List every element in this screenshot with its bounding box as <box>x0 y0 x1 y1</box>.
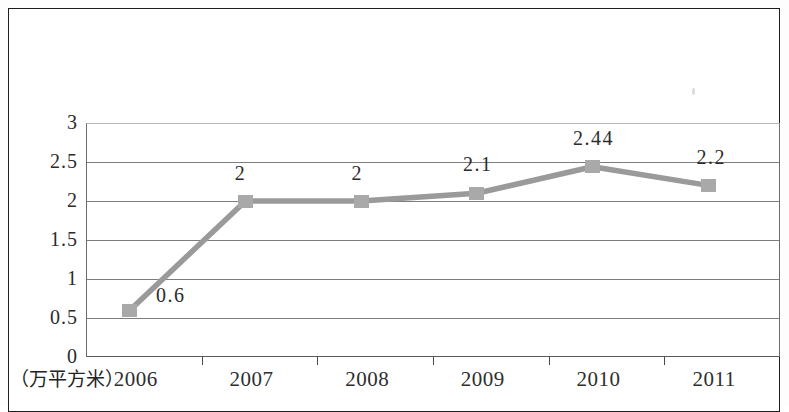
data-point-marker[interactable] <box>585 160 600 173</box>
y-axis-tick-label: 2 <box>14 189 78 212</box>
x-axis-tick-label: 2011 <box>654 367 774 392</box>
data-point-marker[interactable] <box>354 195 369 208</box>
x-axis-tick-label: 2010 <box>539 367 659 392</box>
x-axis-tick <box>317 357 318 365</box>
x-axis-tick <box>202 357 203 365</box>
gridline <box>87 201 779 202</box>
data-point-label: 0.6 <box>121 284 221 307</box>
unit-label: （万平方米） <box>10 364 124 391</box>
gridline <box>87 279 779 280</box>
data-point-label: 2 <box>307 162 407 185</box>
data-point-marker[interactable] <box>469 187 484 200</box>
data-point-marker[interactable] <box>701 179 716 192</box>
y-axis-tick-label: 0.5 <box>14 306 78 329</box>
x-axis-tick-label: 2008 <box>307 367 427 392</box>
data-point-label: 2.1 <box>428 153 528 176</box>
data-point-label: 2.44 <box>544 127 644 150</box>
x-axis-tick <box>549 357 550 365</box>
x-axis-tick <box>433 357 434 365</box>
data-point-label: 2 <box>191 162 291 185</box>
data-point-marker[interactable] <box>238 195 253 208</box>
y-axis-tick-label: 1 <box>14 267 78 290</box>
x-axis-tick-label: 2007 <box>192 367 312 392</box>
data-point-label: 2.2 <box>661 146 761 169</box>
x-axis-tick <box>664 357 665 365</box>
x-axis-tick-label: 2009 <box>423 367 543 392</box>
y-axis-tick-label: 2.5 <box>14 150 78 173</box>
gridline <box>87 318 779 319</box>
gridline <box>87 240 779 241</box>
y-axis-tick-label: 3 <box>14 111 78 134</box>
y-axis-tick-label: 1.5 <box>14 228 78 251</box>
